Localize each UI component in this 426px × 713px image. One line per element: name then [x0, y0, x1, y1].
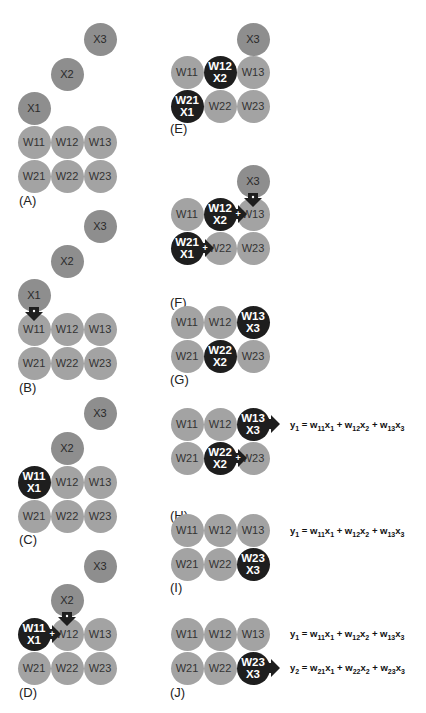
cell-w11: W11 — [171, 306, 204, 339]
cell-label: X2 — [213, 214, 227, 226]
cell-label: W12 — [208, 202, 232, 214]
cell-label: W11 — [176, 628, 198, 640]
arrow-right-icon: + — [233, 205, 247, 223]
cell-label: X1 — [27, 102, 40, 114]
cell-label: X3 — [246, 175, 259, 187]
cell-label: W11 — [176, 316, 198, 328]
cell-label: W23 — [242, 100, 265, 112]
cell-w12: W12 — [204, 408, 237, 441]
svg-text:+: + — [50, 629, 55, 639]
cell-w23: W23 — [84, 652, 117, 685]
cell-label: W23 — [242, 242, 265, 254]
input-x3: X3 — [237, 23, 270, 56]
cell-w11-active: W11X1 — [18, 466, 51, 499]
cell-label: W11 — [23, 323, 45, 335]
cell-label: X1 — [27, 482, 41, 494]
cell-label: X1 — [180, 248, 194, 260]
cell-w22: W22 — [204, 652, 237, 685]
cell-w12: W12 — [51, 126, 84, 159]
cell-label: X3 — [246, 424, 260, 436]
input-x2: X2 — [51, 58, 84, 91]
cell-label: W13 — [241, 310, 265, 322]
cell-label: W23 — [89, 170, 112, 182]
cell-label: W21 — [176, 558, 199, 570]
cell-label: W21 — [175, 236, 199, 248]
cell-w22: W22 — [204, 548, 237, 581]
cell-w12: W12 — [204, 306, 237, 339]
panel-label-C: (C) — [19, 532, 37, 547]
cell-w12: W12 — [204, 618, 237, 651]
cell-label: W13 — [89, 323, 112, 335]
cell-label: W21 — [175, 94, 199, 106]
cell-label: W21 — [176, 350, 199, 362]
svg-text:+: + — [236, 209, 241, 219]
cell-w12-active: W12X2 — [204, 198, 237, 231]
input-x3: X3 — [84, 210, 117, 243]
cell-label: X1 — [27, 634, 41, 646]
arrow-down-icon — [25, 307, 43, 321]
cell-label: X1 — [27, 289, 40, 301]
cell-w21: W21 — [171, 652, 204, 685]
cell-w22-active: W22X2 — [204, 442, 237, 475]
cell-label: W13 — [89, 476, 112, 488]
cell-label: W11 — [176, 524, 198, 536]
cell-label: W22 — [208, 446, 232, 458]
cell-label: W12 — [209, 628, 232, 640]
cell-label: X3 — [246, 668, 260, 680]
cell-w21: W21 — [18, 500, 51, 533]
cell-label: W23 — [241, 552, 265, 564]
cell-w11: W11 — [171, 514, 204, 547]
cell-label: W22 — [209, 100, 232, 112]
cell-w13: W13 — [84, 466, 117, 499]
cell-w22: W22 — [51, 347, 84, 380]
cell-label: W11 — [22, 622, 45, 634]
panel-label-G: (G) — [170, 372, 189, 387]
cell-w13: W13 — [237, 56, 270, 89]
cell-label: W21 — [176, 662, 199, 674]
cell-w21: W21 — [18, 160, 51, 193]
cell-w11: W11 — [171, 56, 204, 89]
cell-label: W11 — [176, 208, 198, 220]
cell-label: W23 — [242, 350, 265, 362]
input-x3: X3 — [84, 550, 117, 583]
equation-y1: y1 = w11x1 + w12x2 + w13x3 — [290, 419, 404, 432]
cell-w12: W12 — [51, 466, 84, 499]
cell-w23: W23 — [237, 90, 270, 123]
cell-w11: W11 — [171, 408, 204, 441]
cell-w12-active: W12X2 — [204, 56, 237, 89]
cell-label: W21 — [23, 662, 46, 674]
cell-label: W13 — [89, 136, 112, 148]
cell-w22-active: W22X2 — [204, 340, 237, 373]
cell-label: W23 — [241, 656, 265, 668]
equation-y1: y1 = w11x1 + w12x2 + w13x3 — [290, 628, 404, 641]
cell-label: W12 — [209, 418, 232, 430]
cell-w13-active: W13X3 — [237, 306, 270, 339]
cell-label: X3 — [246, 33, 259, 45]
cell-w21: W21 — [171, 548, 204, 581]
arrow-right-icon — [266, 659, 280, 677]
cell-label: X3 — [246, 322, 260, 334]
cell-label: W21 — [176, 452, 199, 464]
cell-label: W22 — [209, 558, 232, 570]
input-x2: X2 — [51, 432, 84, 465]
input-x1: X1 — [18, 92, 51, 125]
cell-w11-active: W11X1 — [18, 618, 51, 651]
cell-label: X3 — [93, 560, 106, 572]
cell-w11: W11 — [171, 618, 204, 651]
cell-label: W23 — [89, 357, 112, 369]
cell-label: W22 — [56, 357, 79, 369]
cell-label: W22 — [209, 662, 232, 674]
cell-w23-active: W23X3 — [237, 652, 270, 685]
cell-w23: W23 — [84, 500, 117, 533]
equation-y1: y1 = w11x1 + w12x2 + w13x3 — [290, 525, 404, 538]
arrow-right-icon — [266, 415, 280, 433]
panel-label-J: (J) — [170, 685, 185, 700]
cell-w12: W12 — [51, 313, 84, 346]
input-x3: X3 — [84, 397, 117, 430]
cell-label: W22 — [208, 344, 232, 356]
panel-label-B: (B) — [19, 380, 36, 395]
cell-label: W13 — [241, 412, 265, 424]
cell-label: W22 — [56, 170, 79, 182]
cell-label: W12 — [56, 476, 79, 488]
input-x3: X3 — [84, 23, 117, 56]
